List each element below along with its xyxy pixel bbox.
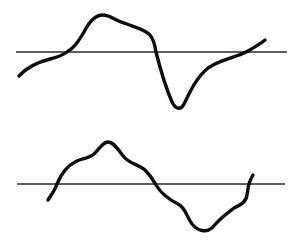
waveform-diagram xyxy=(0,0,301,247)
waveform-svg xyxy=(0,0,301,247)
bottom-waveform-trace xyxy=(48,142,253,231)
top-waveform-group xyxy=(16,15,287,108)
bottom-waveform-group xyxy=(17,142,285,231)
top-waveform-trace xyxy=(19,15,265,108)
